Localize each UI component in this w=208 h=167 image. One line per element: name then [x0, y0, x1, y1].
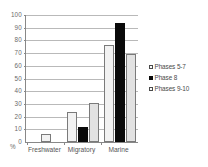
bar-freshwater-phases-5-7 — [41, 134, 51, 142]
y-tick-60: 60 — [2, 63, 22, 69]
tickmark-20 — [24, 117, 26, 118]
bar-group-freshwater — [27, 15, 64, 142]
bar-marine-phases-5-7 — [104, 45, 114, 142]
group-separator-mid — [64, 142, 65, 145]
legend-item-phase-8: Phase 8 — [149, 72, 207, 83]
y-axis-unit-label: % — [10, 144, 16, 150]
legend-label-phase-8: Phase 8 — [155, 74, 178, 81]
tickmark-30 — [24, 104, 26, 105]
bar-migratory-phases-9-10 — [89, 103, 99, 142]
bar-group-migratory — [64, 15, 101, 142]
y-axis-tick-labels: 100 90 80 70 60 50 40 30 20 10 0 — [0, 15, 22, 142]
legend-label-phases-5-7: Phases 5-7 — [155, 63, 186, 70]
x-label-marine: Marine — [100, 146, 137, 154]
legend-swatch-phase-8-icon — [149, 76, 153, 80]
y-tick-50: 50 — [2, 76, 22, 82]
y-tick-80: 80 — [2, 37, 22, 43]
bar-migratory-phase-8 — [78, 127, 88, 142]
bar-migratory-phases-5-7 — [67, 112, 77, 142]
bar-marine-phase-8 — [115, 23, 125, 142]
x-axis-labels: Freshwater Migratory Marine — [26, 146, 137, 154]
bar-groups — [27, 15, 138, 142]
y-tick-100: 100 — [2, 12, 22, 18]
tickmark-40 — [24, 91, 26, 92]
y-tick-70: 70 — [2, 50, 22, 56]
tickmark-60 — [24, 66, 26, 67]
bar-group-marine — [101, 15, 138, 142]
tickmark-80 — [24, 40, 26, 41]
tickmark-50 — [24, 79, 26, 80]
bar-marine-phases-9-10 — [126, 54, 136, 142]
legend-item-phases-5-7: Phases 5-7 — [149, 61, 207, 72]
y-tick-40: 40 — [2, 88, 22, 94]
y-tick-10: 10 — [2, 126, 22, 132]
y-tick-90: 90 — [2, 25, 22, 31]
tickmark-90 — [24, 28, 26, 29]
chart-legend: Phases 5-7 Phase 8 Phases 9-10 — [149, 61, 207, 94]
y-tick-30: 30 — [2, 101, 22, 107]
legend-swatch-phases-5-7-icon — [149, 65, 153, 69]
tickmark-70 — [24, 53, 26, 54]
x-label-migratory: Migratory — [63, 146, 100, 154]
legend-swatch-phases-9-10-icon — [149, 87, 153, 91]
legend-label-phases-9-10: Phases 9-10 — [155, 85, 190, 92]
y-tick-20: 20 — [2, 114, 22, 120]
plot-area — [25, 15, 138, 143]
tickmark-100 — [24, 15, 26, 16]
bar-chart: 100 90 80 70 60 50 40 30 20 10 0 % — [0, 0, 208, 167]
legend-item-phases-9-10: Phases 9-10 — [149, 83, 207, 94]
x-label-freshwater: Freshwater — [26, 146, 63, 154]
group-separator-left — [27, 142, 28, 145]
group-separator-right — [101, 142, 102, 145]
tickmark-10 — [24, 129, 26, 130]
